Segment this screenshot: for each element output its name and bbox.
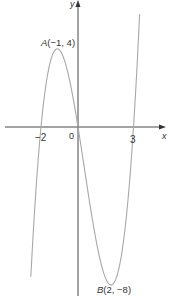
y-axis-arrow-icon [76,0,81,7]
x-axis-arrow-icon [159,125,166,130]
point-a-letter: A [40,37,47,48]
x-axis-label: x [161,131,167,141]
point-a-coords: (−1, 4) [47,37,75,48]
point-b-label: B(2, −8) [97,284,131,295]
point-b-coords: (2, −8) [103,284,131,295]
tick-label-neg2: −2 [35,132,47,143]
cubic-curve [31,14,140,285]
tick-label-3: 3 [130,134,136,145]
point-a-label: A(−1, 4) [40,37,75,48]
cubic-graph: y x −2 0 3 A(−1, 4) B(2, −8) [0,0,169,296]
y-axis-label: y [69,0,75,9]
origin-label: 0 [69,131,74,141]
